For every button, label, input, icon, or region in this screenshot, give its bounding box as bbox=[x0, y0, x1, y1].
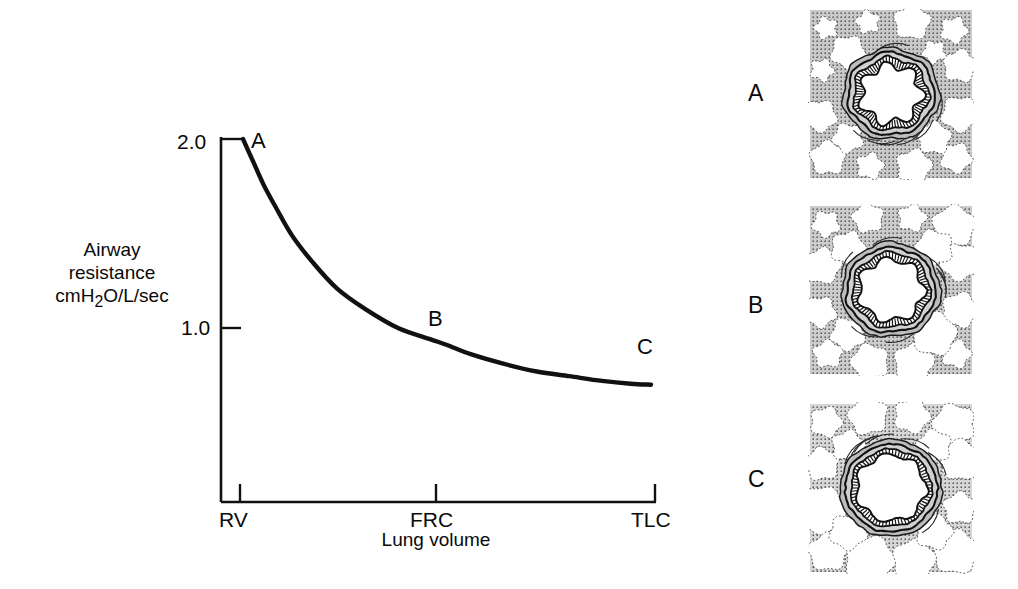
y-axis-unit-subscript: 2 bbox=[94, 293, 103, 310]
curve-point-label-b: B bbox=[428, 306, 443, 332]
y-axis-unit-suffix: O/L/sec bbox=[103, 285, 168, 306]
histology-image-b bbox=[808, 204, 974, 376]
y-tick-label-2: 2.0 bbox=[177, 130, 206, 154]
x-tick-label-frc: FRC bbox=[410, 508, 453, 532]
x-tick-label-rv: RV bbox=[219, 508, 248, 532]
resistance-volume-chart: Airway resistance cmH2O/L/sec Lung volum… bbox=[0, 0, 740, 589]
y-axis-title: Airway resistance cmH2O/L/sec bbox=[22, 238, 202, 313]
figure-root: Airway resistance cmH2O/L/sec Lung volum… bbox=[0, 0, 1018, 589]
curve-point-label-c: C bbox=[637, 334, 653, 360]
x-tick-label-tlc: TLC bbox=[631, 508, 671, 532]
y-tick-label-1: 1.0 bbox=[181, 316, 210, 340]
y-axis-title-line1: Airway bbox=[22, 238, 202, 261]
histology-label-a: A bbox=[748, 80, 774, 107]
curve-point-label-a: A bbox=[251, 128, 266, 154]
histology-image-c bbox=[808, 402, 974, 574]
y-axis-unit-prefix: cmH bbox=[55, 285, 94, 306]
histology-label-b: B bbox=[748, 292, 774, 319]
y-axis-title-line3: cmH2O/L/sec bbox=[22, 284, 202, 313]
resistance-curve bbox=[243, 139, 651, 385]
histology-label-c: C bbox=[748, 466, 774, 493]
histology-image-a bbox=[808, 8, 974, 180]
y-axis-title-line2: resistance bbox=[22, 261, 202, 284]
